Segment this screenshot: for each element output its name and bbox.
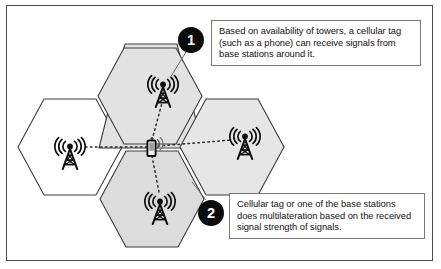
cell-bottom bbox=[100, 151, 204, 247]
callout-box-2: Cellular tag or one of the base stations… bbox=[229, 193, 425, 239]
cellular-positioning-diagram: Based on availability of towers, a cellu… bbox=[0, 0, 441, 269]
callout-badge-1: 1 bbox=[178, 27, 204, 53]
callout-box-1: Based on availability of towers, a cellu… bbox=[211, 20, 421, 66]
callout-badge-2-number: 2 bbox=[207, 205, 215, 221]
callout-1-text: Based on availability of towers, a cellu… bbox=[219, 25, 401, 59]
callout-badge-2: 2 bbox=[198, 200, 224, 226]
callout-2-text: Cellular tag or one of the base stations… bbox=[237, 198, 411, 232]
cell-right bbox=[180, 99, 284, 195]
callout-badge-1-number: 1 bbox=[187, 32, 195, 48]
